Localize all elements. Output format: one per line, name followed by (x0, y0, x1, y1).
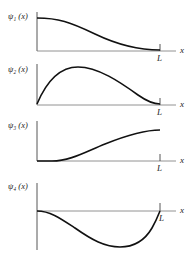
psi-4-curve (37, 211, 160, 247)
panel-1 (37, 12, 176, 51)
x-axis-label: x (180, 156, 184, 165)
psi-2-label: ψ₂ (x) (8, 65, 28, 74)
l-label: L (157, 108, 162, 117)
psi-2-curve (37, 67, 160, 104)
l-label: L (157, 54, 162, 63)
panel-3 (37, 121, 176, 161)
panel-2 (37, 64, 176, 105)
psi-1-label: ψ₁ (x) (8, 12, 28, 21)
psi-3-label: ψ₃ (x) (8, 121, 28, 130)
psi-1-curve (37, 18, 160, 50)
l-label: L (157, 164, 162, 173)
psi-3-curve (37, 130, 160, 161)
l-label: L (159, 214, 164, 223)
x-axis-label: x (180, 46, 184, 55)
panel-4 (37, 183, 176, 250)
x-axis-label: x (180, 206, 184, 215)
diagram-canvas (0, 0, 196, 262)
x-axis-label: x (180, 100, 184, 109)
wavefunction-diagram: ψ₁ (x) x L ψ₂ (x) x L ψ₃ (x) x L ψ₄ (x) … (0, 0, 196, 262)
psi-4-label: ψ₄ (x) (8, 182, 28, 191)
